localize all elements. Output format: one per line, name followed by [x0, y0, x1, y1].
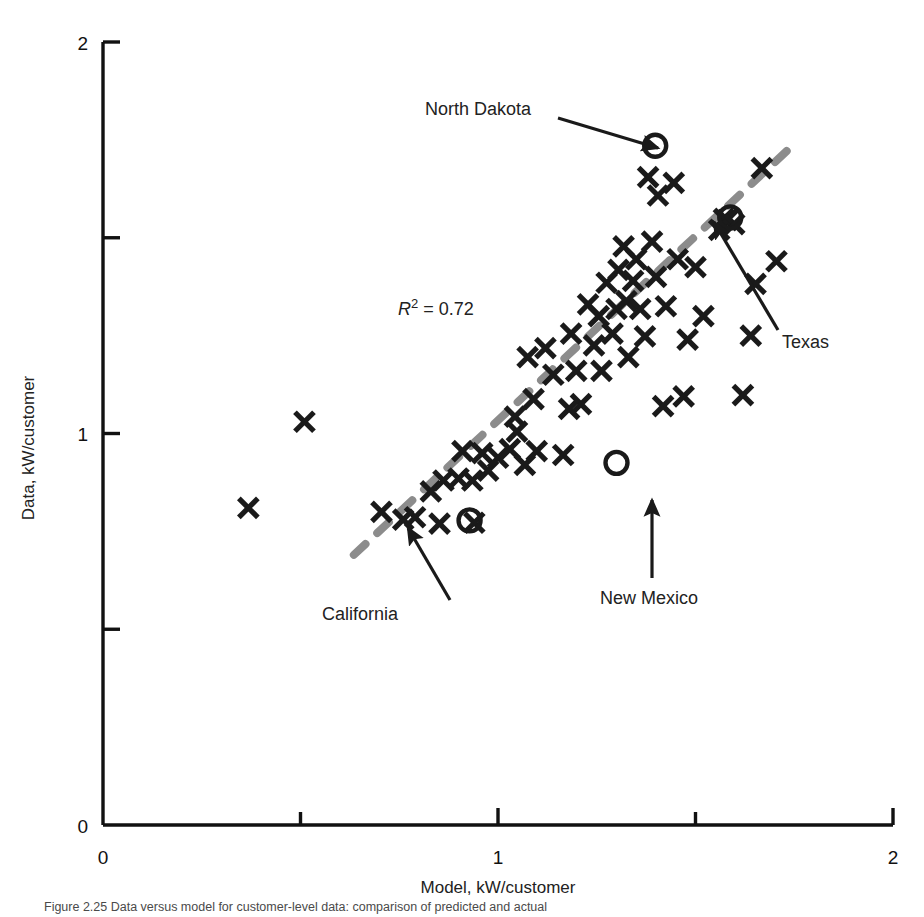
marker-x	[603, 324, 622, 343]
x-tick-label-2: 2	[888, 847, 899, 868]
r-squared-symbol: R	[398, 299, 411, 319]
marker-x	[527, 442, 546, 461]
marker-x	[507, 422, 526, 441]
annotation-arrow-california	[408, 528, 450, 600]
figure-caption: Figure 2.25 Data versus model for custom…	[44, 900, 547, 914]
y-tick-label-2: 2	[77, 33, 88, 54]
marker-x	[239, 498, 258, 517]
annotation-label-california: California	[322, 604, 399, 624]
r-squared-annotation: R2 = 0.72	[398, 296, 474, 319]
marker-x	[592, 361, 611, 380]
marker-x	[518, 348, 537, 367]
marker-x	[694, 307, 713, 326]
annotation-label-texas: Texas	[782, 332, 829, 352]
data-markers	[239, 159, 786, 533]
figure-container: North DakotaTexasNew MexicoCalifornia Da…	[0, 0, 924, 917]
marker-x	[733, 386, 752, 405]
marker-circle-new-mexico	[606, 452, 628, 474]
marker-x	[656, 297, 675, 316]
r-squared-number: = 0.72	[423, 299, 474, 319]
marker-x	[295, 412, 314, 431]
y-tick-label-0: 0	[77, 816, 88, 837]
marker-x	[567, 361, 586, 380]
annotation-label-north-dakota: North Dakota	[425, 99, 532, 119]
marker-x	[473, 444, 492, 463]
marker-x	[635, 327, 654, 346]
marker-x	[674, 387, 693, 406]
annotation-arrow-texas	[714, 222, 778, 330]
marker-x	[372, 502, 391, 521]
marker-x	[619, 348, 638, 367]
x-tick-label-1: 1	[493, 847, 504, 868]
marker-x	[524, 390, 543, 409]
marker-x	[741, 326, 760, 345]
highlighted-markers	[459, 135, 742, 532]
annotation-label-new-mexico: New Mexico	[600, 588, 698, 608]
marker-x	[536, 339, 555, 358]
r-squared-exponent: 2	[411, 296, 418, 311]
marker-x	[584, 336, 603, 355]
marker-x	[639, 168, 658, 187]
x-tick-label-0: 0	[98, 847, 109, 868]
marker-x	[430, 514, 449, 533]
annotation-arrow-north-dakota	[558, 118, 658, 148]
marker-x	[654, 397, 673, 416]
marker-x	[627, 250, 646, 269]
marker-x	[554, 446, 573, 465]
marker-x	[643, 232, 662, 251]
y-axis-title: Data, kW/customer	[19, 375, 38, 520]
x-axis-title: Model, kW/customer	[421, 878, 576, 897]
y-tick-label-1: 1	[77, 424, 88, 445]
scatter-chart: North DakotaTexasNew MexicoCalifornia Da…	[0, 0, 924, 917]
marker-x	[664, 173, 683, 192]
marker-x	[678, 330, 697, 349]
marker-x	[767, 252, 786, 271]
marker-x	[562, 324, 581, 343]
